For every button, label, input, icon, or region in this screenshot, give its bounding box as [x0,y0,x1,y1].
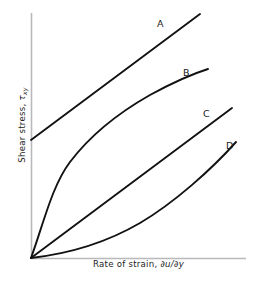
curve-c [31,108,232,258]
curve-label-c: C [203,108,210,119]
chart-canvas: A B C D [0,0,256,281]
x-axis-label: Rate of strain, ∂u/∂y [31,260,246,269]
curve-label-d: D [226,140,234,151]
curve-b [31,69,208,258]
x-axis-label-prefix: Rate of strain, [93,259,160,269]
curve-a [31,14,200,140]
curve-label-a: A [157,18,164,29]
y-axis-label-symbol: τ [17,95,27,100]
y-axis-label-subscript: xy [21,87,29,95]
y-axis-label: Shear stress, τxy [18,55,28,195]
x-axis-label-symbol: ∂u/∂y [160,259,184,269]
curve-d [31,142,236,258]
y-axis-label-prefix: Shear stress, [17,101,27,163]
curve-label-b: B [183,67,190,78]
shear-stress-strain-rate-chart: A B C D Shear stress, τxy Rate of strain… [0,0,256,281]
